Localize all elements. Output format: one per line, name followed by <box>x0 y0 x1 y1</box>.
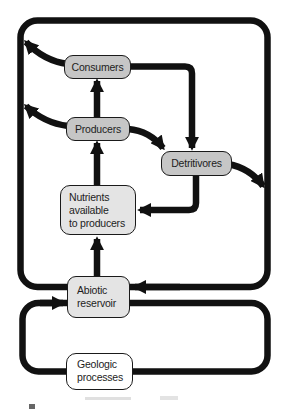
geologic-cycle-loop <box>23 303 268 372</box>
arrow-producers-to-detritivores <box>128 129 163 148</box>
geologic-label-line1: Geologic <box>77 358 132 371</box>
arrow-detritivores-to-nutrients <box>140 173 196 210</box>
abiotic-label-line2: reservoir <box>77 297 129 310</box>
caption-fragment <box>160 396 178 400</box>
caption-fragment <box>29 404 35 409</box>
nutrients-label-line3: to producers <box>69 217 135 230</box>
box-consumers: Consumers <box>64 55 131 79</box>
nutrients-label-line2: available <box>69 204 135 217</box>
detritivores-label: Detritivores <box>171 157 222 170</box>
box-abiotic-reservoir: Abiotic reservoir <box>67 276 130 318</box>
nutrients-label-line1: Nutrients <box>69 191 135 204</box>
abiotic-label-line1: Abiotic <box>77 284 129 297</box>
box-producers: Producers <box>66 117 130 141</box>
consumers-label: Consumers <box>72 61 124 74</box>
arrow-consumers-to-outer-cycle <box>26 42 68 64</box>
box-nutrients-available: Nutrients available to producers <box>60 185 136 235</box>
producers-label: Producers <box>75 123 121 136</box>
box-geologic-processes: Geologic processes <box>66 353 133 390</box>
arrow-consumers-to-detritivores <box>128 67 192 149</box>
nutrient-cycle-diagram: Consumers Producers Detritivores Nutrien… <box>0 0 286 409</box>
caption-fragment <box>85 397 131 400</box>
arrow-producers-to-outer-cycle <box>26 106 68 126</box>
flow-arrows-layer <box>0 0 286 409</box>
box-detritivores: Detritivores <box>161 151 232 176</box>
arrow-detritivores-to-outer-cycle <box>228 164 263 186</box>
geologic-label-line2: processes <box>77 371 132 384</box>
